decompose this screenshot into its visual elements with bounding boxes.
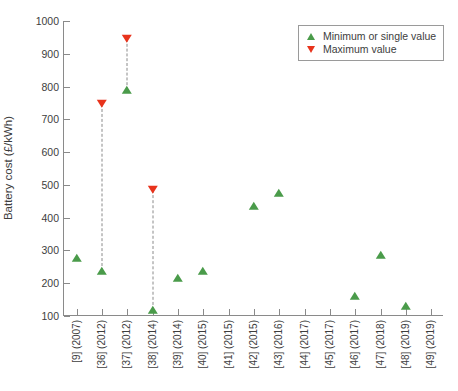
- x-axis-tick: [102, 309, 103, 315]
- y-axis-tick: [64, 21, 70, 22]
- y-axis-tick: [64, 152, 70, 153]
- y-axis-tick: [64, 250, 70, 251]
- x-axis-tick-label: [41] (2015): [224, 320, 234, 368]
- y-axis-tick-label: 800: [41, 81, 59, 92]
- x-axis-tick-label: [42] (2015): [249, 320, 259, 368]
- y-axis-tick: [64, 87, 70, 88]
- x-axis-tick: [77, 309, 78, 315]
- legend-item-label: Maximum value: [323, 44, 397, 55]
- x-axis-tick: [279, 309, 280, 315]
- data-point-min-marker[interactable]: [122, 86, 132, 94]
- data-point-min-marker[interactable]: [249, 201, 259, 209]
- chart-legend: Minimum or single valueMaximum value: [298, 25, 444, 61]
- data-point-max-marker[interactable]: [147, 186, 157, 194]
- y-axis-tick-label: 100: [41, 311, 59, 322]
- y-axis-tick: [64, 119, 70, 120]
- y-axis-tick: [64, 185, 70, 186]
- min-max-connector-line: [102, 104, 103, 271]
- x-axis-tick: [203, 309, 204, 315]
- x-axis-tick-label: [40] (2015): [198, 320, 208, 368]
- x-axis-tick-label: [9] (2007): [72, 320, 82, 363]
- data-point-min-marker[interactable]: [97, 266, 107, 274]
- y-axis-tick-label: 500: [41, 180, 59, 191]
- data-point-min-marker[interactable]: [274, 188, 284, 196]
- min-max-connector-line: [127, 39, 128, 90]
- x-axis-tick: [229, 309, 230, 315]
- x-axis-tick: [406, 309, 407, 315]
- x-axis-tick: [178, 309, 179, 315]
- y-axis-tick: [64, 316, 70, 317]
- min-max-connector-line: [152, 190, 153, 310]
- x-axis-tick-label: [38] (2014): [148, 320, 158, 368]
- data-point-min-marker[interactable]: [173, 274, 183, 282]
- y-axis-title: Battery cost (£/kWh): [2, 116, 14, 220]
- chart-figure: Battery cost (£/kWh) 1000900800700600500…: [0, 0, 458, 391]
- y-axis-tick-label: 1000: [36, 16, 59, 27]
- x-axis-tick-label: [39] (2014): [173, 320, 183, 368]
- x-axis-tick-label: [45] (2017): [325, 320, 335, 368]
- x-axis-tick: [355, 309, 356, 315]
- data-point-max-marker[interactable]: [97, 99, 107, 107]
- y-axis-tick-label: 200: [41, 278, 59, 289]
- y-axis-tick: [64, 283, 70, 284]
- y-axis-tick-label: 700: [41, 114, 59, 125]
- x-axis-tick-label: [49] (2019): [426, 320, 436, 368]
- y-axis-tick-label: 400: [41, 212, 59, 223]
- data-point-min-marker[interactable]: [401, 302, 411, 310]
- legend-item[interactable]: Minimum or single value: [304, 30, 436, 43]
- y-axis-tick-label: 600: [41, 147, 59, 158]
- y-axis-tick-label: 900: [41, 49, 59, 60]
- legend-item-label: Minimum or single value: [323, 31, 436, 42]
- data-point-max-marker[interactable]: [122, 35, 132, 43]
- data-point-min-marker[interactable]: [375, 251, 385, 259]
- data-point-min-marker[interactable]: [147, 306, 157, 314]
- triangle-down-icon: [304, 46, 318, 53]
- plot-area: 1000900800700600500400300200100 [9] (200…: [63, 21, 443, 316]
- x-axis-tick-label: [44] (2017): [300, 320, 310, 368]
- y-axis-tick-label: 300: [41, 245, 59, 256]
- x-axis-tick: [330, 309, 331, 315]
- legend-item[interactable]: Maximum value: [304, 43, 436, 56]
- data-point-min-marker[interactable]: [350, 292, 360, 300]
- x-axis-tick-label: [36] (2012): [97, 320, 107, 368]
- data-point-min-marker[interactable]: [71, 253, 81, 261]
- x-axis-tick-label: [47] (2018): [376, 320, 386, 368]
- y-axis-tick: [64, 218, 70, 219]
- x-axis-tick: [127, 309, 128, 315]
- x-axis-tick: [431, 309, 432, 315]
- triangle-up-icon: [304, 33, 318, 40]
- x-axis-tick: [254, 309, 255, 315]
- x-axis-tick: [305, 309, 306, 315]
- x-axis-tick-label: [46] (2017): [350, 320, 360, 368]
- data-point-min-marker[interactable]: [198, 267, 208, 275]
- x-axis-tick-label: [37] (2012): [122, 320, 132, 368]
- x-axis-tick: [381, 309, 382, 315]
- y-axis-tick: [64, 54, 70, 55]
- x-axis-tick-label: [48] (2019): [401, 320, 411, 368]
- x-axis-tick-label: [43] (2016): [274, 320, 284, 368]
